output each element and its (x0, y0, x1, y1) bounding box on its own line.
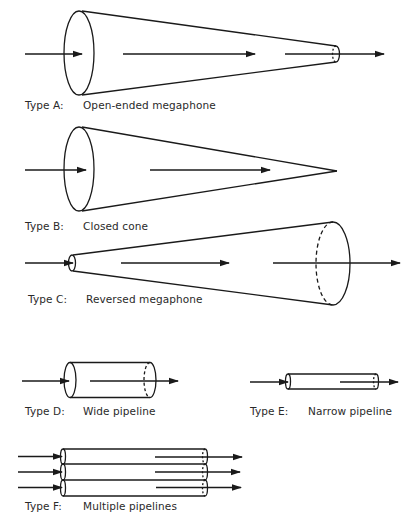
cone-bottom-edge (82, 171, 337, 211)
shape-type-b-closed-cone (25, 127, 337, 211)
label-type-e: Type E:Narrow pipeline (250, 405, 392, 417)
type-letter: Type C: (28, 293, 86, 305)
type-letter: Type D: (25, 405, 83, 417)
shape-type-d-wide-pipeline (22, 363, 178, 398)
diagram-svg (0, 0, 420, 518)
outlet-front (150, 363, 156, 398)
cone-top-edge (82, 127, 337, 171)
type-letter: Type B: (25, 220, 83, 232)
type-name: Reversed megaphone (86, 293, 203, 305)
cone-bottom-edge (82, 62, 336, 95)
inlet-ellipse (64, 363, 76, 398)
shape-type-f-multiple-pipelines (18, 449, 242, 496)
pipe-2 (18, 464, 240, 480)
type-letter: Type F: (25, 500, 83, 512)
label-type-b: Type B:Closed cone (25, 220, 148, 232)
type-name: Wide pipeline (83, 405, 156, 417)
label-type-d: Type D:Wide pipeline (25, 405, 156, 417)
type-letter: Type E: (250, 405, 308, 417)
label-type-c: Type C:Reversed megaphone (28, 293, 203, 305)
pipe-3 (18, 480, 241, 496)
pipe-1 (18, 449, 242, 464)
label-type-f: Type F:Multiple pipelines (25, 500, 177, 512)
base-ellipse (64, 127, 94, 211)
type-name: Multiple pipelines (83, 500, 177, 512)
type-name: Narrow pipeline (308, 405, 392, 417)
cone-top-edge (82, 11, 336, 46)
type-letter: Type A: (25, 99, 83, 111)
shape-type-a-open-ended-megaphone (25, 11, 384, 95)
outlet-back (144, 363, 150, 398)
diagram-canvas: Type A:Open-ended megaphone Type B:Close… (0, 0, 420, 518)
wide-opening-ellipse (64, 11, 94, 95)
label-type-a: Type A:Open-ended megaphone (25, 99, 216, 111)
type-name: Open-ended megaphone (83, 99, 216, 111)
shape-type-e-narrow-pipeline (250, 374, 398, 389)
type-name: Closed cone (83, 220, 148, 232)
